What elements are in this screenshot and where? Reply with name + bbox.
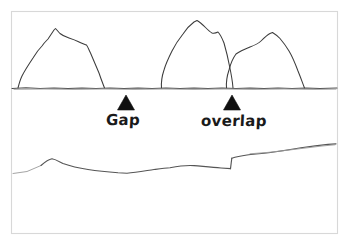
horizon-baseline	[12, 88, 337, 89]
sketch-canvas: Gap overlap	[0, 0, 352, 248]
gap-label: Gap	[106, 111, 141, 129]
overlap-label: overlap	[201, 112, 268, 130]
sketch-frame	[12, 12, 338, 234]
sketch-drawing	[0, 0, 352, 248]
